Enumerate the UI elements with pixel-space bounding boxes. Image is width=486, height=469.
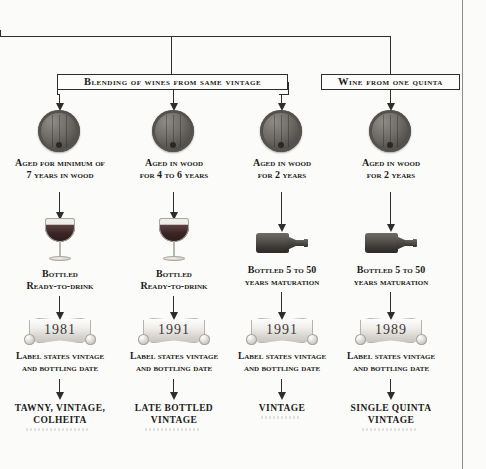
barrel-icon-1 [38,110,80,152]
wine-glass-icon-2 [157,218,191,264]
aging-text-3: Aged in wood for 2 years [222,157,342,181]
category-box-blending-label: Blending of wines from same vintage [84,76,261,87]
product-text-3: VINTAGE [222,403,342,415]
arrow-to-product-3 [281,379,282,393]
arrow-to-scroll-4 [390,292,391,313]
arrow-to-vessel-4 [390,192,391,225]
vintage-scroll-4: 1989 [353,317,429,347]
bottling-text-1: Bottled Ready-to-drink [0,268,120,292]
wine-glass-icon-1 [43,218,77,264]
label-note-text-1: Label states vintage and bottling date [0,351,120,374]
product-text-1: TAWNY, VINTAGE, COLHEITA [0,403,120,426]
arrow-to-scroll-2 [173,296,174,313]
diagram-canvas: Blending of wines from same vintage Wine… [0,0,486,469]
vintage-scroll-2: 1991 [136,317,212,347]
trunk-horizontal-line [0,36,391,37]
barrel-icon-2 [152,110,194,152]
arrow-to-vessel-2 [173,192,174,213]
category-box-blending[interactable]: Blending of wines from same vintage [57,74,288,90]
arrow-to-barrel-1 [59,94,60,104]
vintage-scroll-1: 1981 [22,317,98,347]
trunk-left-stub [0,30,1,37]
label-note-text-4: Label states vintage and bottling date [331,351,451,374]
bottling-text-3: Bottled 5 to 50 years maturation [222,264,342,288]
bottling-text-4: Bottled 5 to 50 years maturation [331,264,451,288]
trunk-drop-blending [171,36,172,76]
arrow-to-product-2 [173,379,174,393]
vintage-year-2: 1991 [136,322,212,338]
wine-bottle-icon-3 [256,233,308,253]
wine-bottle-icon-4 [365,233,417,253]
barrel-icon-3 [260,110,302,152]
category-box-quinta-label: Wine from one quinta [338,76,443,87]
label-note-text-3: Label states vintage and bottling date [222,351,342,374]
category-box-quinta[interactable]: Wine from one quinta [321,74,460,90]
print-smudge-2 [145,428,201,431]
arrow-to-product-1 [59,379,60,393]
arrow-to-barrel-2 [173,90,174,104]
aging-text-2: Aged in wood for 4 to 6 years [114,157,234,181]
aging-text-1: Aged for minimum of 7 years in wood [0,157,120,181]
product-text-4: SINGLE QUINTA VINTAGE [331,403,451,426]
page-margin-rule [462,0,463,469]
blending-bracket-right-leg [288,82,289,94]
vintage-year-4: 1989 [353,322,429,338]
barrel-icon-4 [369,110,411,152]
arrow-to-barrel-3 [281,94,282,104]
arrow-to-vessel-3 [281,192,282,225]
aging-text-4: Aged in wood for 2 years [331,157,451,181]
vintage-scroll-3: 1991 [244,317,320,347]
vintage-year-3: 1991 [244,322,320,338]
trunk-drop-quinta [390,36,391,76]
bottling-text-2: Bottled Ready-to-drink [114,268,234,292]
product-text-2: LATE BOTTLED VINTAGE [114,403,234,426]
blending-bracket-left-leg [57,82,58,94]
print-smudge-3 [261,416,301,419]
arrow-to-barrel-4 [390,90,391,104]
print-smudge-1 [26,428,90,431]
arrow-to-scroll-3 [281,292,282,313]
arrow-to-vessel-1 [59,192,60,213]
arrow-to-scroll-1 [59,296,60,313]
vintage-year-1: 1981 [22,322,98,338]
arrow-to-product-4 [390,379,391,393]
label-note-text-2: Label states vintage and bottling date [114,351,234,374]
print-smudge-4 [362,428,418,431]
